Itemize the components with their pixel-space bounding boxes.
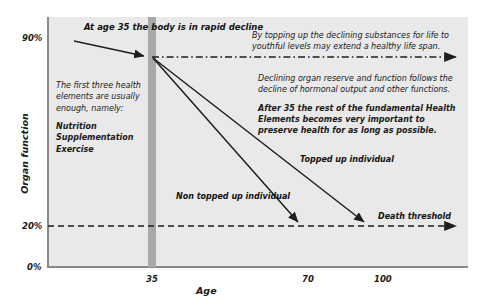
- y-tick-0: 0%: [27, 262, 41, 272]
- note-left-line2: elements are usually: [56, 92, 140, 101]
- note-mid-right-emph3: health for as long as possible.: [301, 126, 437, 135]
- note-left-line3: enough, namely:: [56, 104, 124, 113]
- note-mid-right-emphasis: After 35 the rest of the fundamental Hea…: [258, 103, 464, 137]
- headline-annotation: At age 35 the body is in rapid decline: [84, 22, 263, 32]
- y-axis-title: Organ function: [19, 113, 30, 193]
- label-topped-up-individual: Topped up individual: [300, 155, 394, 164]
- x-tick-70: 70: [302, 274, 314, 284]
- note-top-right-line1: By topping up the declining substances f…: [252, 31, 449, 40]
- chart-figure: At age 35 the body is in rapid decline T…: [0, 0, 488, 308]
- label-death-threshold: Death threshold: [378, 212, 451, 221]
- note-left-emph3: Exercise: [56, 144, 162, 155]
- note-left-emph2: Supplementation: [56, 132, 162, 143]
- note-mid-right-block: Declining organ reserve and function fol…: [258, 73, 464, 137]
- x-axis-line: [47, 266, 468, 268]
- note-left-emphasis: Nutrition Supplementation Exercise: [56, 121, 162, 155]
- note-left-line1: The first three health: [56, 81, 141, 90]
- note-left-emph1: Nutrition: [56, 121, 162, 132]
- note-top-right-block: By topping up the declining substances f…: [252, 30, 464, 53]
- y-tick-90: 90%: [22, 33, 42, 43]
- note-mid-right-line2: decline of hormonal output and other fun…: [258, 85, 450, 94]
- x-tick-100: 100: [374, 274, 392, 284]
- note-mid-right-line1: Declining organ reserve and function fol…: [258, 74, 453, 83]
- x-tick-35: 35: [146, 274, 158, 284]
- note-top-right-line2: youthful levels may extend a healthy lif…: [252, 42, 440, 51]
- note-left-block: The first three health elements are usua…: [56, 80, 162, 155]
- note-mid-right-emph1: After 35 the rest of the fundamental Hea…: [258, 104, 456, 113]
- label-non-topped-up-individual: Non topped up individual: [176, 192, 290, 201]
- y-tick-20: 20%: [22, 221, 42, 231]
- y-axis-line: [47, 17, 49, 268]
- x-axis-title: Age: [196, 285, 217, 296]
